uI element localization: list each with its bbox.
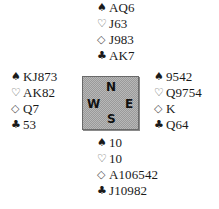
heart-icon: ♡	[97, 151, 108, 167]
north-spades-cards: AQ6	[108, 0, 135, 16]
south-hearts: ♡ 10	[97, 151, 158, 167]
west-clubs-cards: 53	[22, 117, 36, 133]
west-hearts: ♡ AK82	[11, 85, 57, 101]
east-spades-cards: 9542	[165, 69, 192, 85]
club-icon: ♣	[11, 117, 22, 133]
club-icon: ♣	[154, 117, 165, 133]
north-diamonds-cards: J983	[108, 32, 134, 48]
club-icon: ♣	[97, 183, 108, 199]
spade-icon: ♠	[11, 69, 22, 85]
east-hearts-cards: Q9754	[165, 85, 202, 101]
south-spades-cards: 10	[108, 135, 122, 151]
west-diamonds-cards: Q7	[22, 101, 39, 117]
north-hand: ♠ AQ6 ♡ J63 ◇ J983 ♣ AK7	[97, 0, 135, 64]
south-hand: ♠ 10 ♡ 10 ◇ A106542 ♣ J10982	[97, 135, 158, 199]
spade-icon: ♠	[97, 135, 108, 151]
east-diamonds: ◇ K	[154, 101, 202, 117]
south-diamonds: ◇ A106542	[97, 167, 158, 183]
compass-box: N W E S	[82, 76, 139, 130]
south-diamonds-cards: A106542	[108, 167, 158, 183]
diamond-icon: ◇	[97, 32, 108, 48]
west-hand: ♠ KJ873 ♡ AK82 ◇ Q7 ♣ 53	[11, 69, 57, 133]
east-diamonds-cards: K	[165, 101, 176, 117]
north-clubs: ♣ AK7	[97, 48, 135, 64]
diamond-icon: ◇	[11, 101, 22, 117]
north-hearts: ♡ J63	[97, 16, 135, 32]
west-clubs: ♣ 53	[11, 117, 57, 133]
heart-icon: ♡	[97, 16, 108, 32]
north-diamonds: ◇ J983	[97, 32, 135, 48]
south-clubs: ♣ J10982	[97, 183, 158, 199]
west-diamonds: ◇ Q7	[11, 101, 57, 117]
diamond-icon: ◇	[154, 101, 165, 117]
heart-icon: ♡	[11, 85, 22, 101]
compass-west-label: W	[87, 98, 100, 110]
north-hearts-cards: J63	[108, 16, 127, 32]
east-hearts: ♡ Q9754	[154, 85, 202, 101]
east-clubs-cards: Q64	[165, 117, 189, 133]
compass-north-label: N	[106, 81, 116, 93]
north-spades: ♠ AQ6	[97, 0, 135, 16]
east-hand: ♠ 9542 ♡ Q9754 ◇ K ♣ Q64	[154, 69, 202, 133]
club-icon: ♣	[97, 48, 108, 64]
east-spades: ♠ 9542	[154, 69, 202, 85]
compass-south-label: S	[107, 113, 116, 125]
south-spades: ♠ 10	[97, 135, 158, 151]
west-hearts-cards: AK82	[22, 85, 55, 101]
heart-icon: ♡	[154, 85, 165, 101]
west-spades: ♠ KJ873	[11, 69, 57, 85]
compass-east-label: E	[125, 98, 133, 110]
diamond-icon: ◇	[97, 167, 108, 183]
east-clubs: ♣ Q64	[154, 117, 202, 133]
south-clubs-cards: J10982	[108, 183, 147, 199]
spade-icon: ♠	[97, 0, 108, 16]
west-spades-cards: KJ873	[22, 69, 57, 85]
north-clubs-cards: AK7	[108, 48, 135, 64]
spade-icon: ♠	[154, 69, 165, 85]
south-hearts-cards: 10	[108, 151, 122, 167]
